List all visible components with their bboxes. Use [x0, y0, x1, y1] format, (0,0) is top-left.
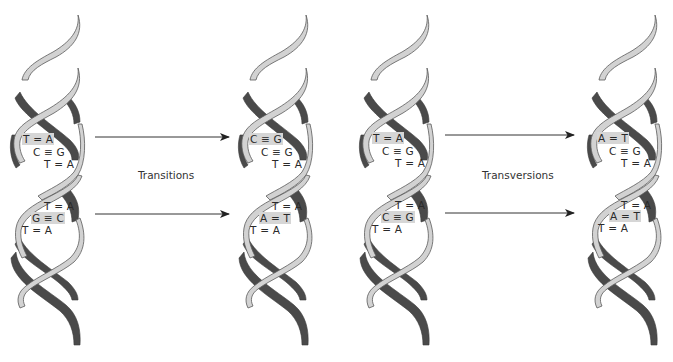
- base-pair-highlighted: T = A: [22, 133, 54, 145]
- base-pair: T = A: [22, 224, 52, 236]
- base-pair: T = A: [621, 157, 651, 169]
- base-pair: T = A: [395, 157, 425, 169]
- base-pair: T = A: [395, 199, 425, 211]
- base-pair-highlighted: T = A: [372, 132, 404, 144]
- helix-original-2: [359, 15, 433, 345]
- base-pair: T = A: [598, 222, 628, 234]
- transitions-label: Transitions: [138, 169, 194, 181]
- base-pair-highlighted: A = T: [597, 132, 629, 144]
- base-pair: C ≡ G: [609, 145, 641, 157]
- base-pair: T = A: [250, 224, 280, 236]
- base-pair: C ≡ G: [261, 146, 293, 158]
- base-pair: T = A: [44, 200, 74, 212]
- base-pair-highlighted: C ≡ G: [381, 211, 415, 223]
- base-pair: C ≡ G: [382, 145, 414, 157]
- base-pair: T = A: [272, 200, 302, 212]
- helix-transition-result: [238, 15, 312, 345]
- base-pair-highlighted: A = T: [259, 212, 291, 224]
- base-pair-highlighted: A = T: [609, 210, 641, 222]
- base-pair-highlighted: C ≡ G: [249, 133, 283, 145]
- base-pair: T = A: [372, 223, 402, 235]
- transversions-label: Transversions: [482, 169, 554, 181]
- base-pair: C ≡ G: [33, 146, 65, 158]
- base-pair: T = A: [44, 158, 74, 170]
- helix-transversion-result: [587, 15, 661, 345]
- diagram-canvas: [0, 0, 673, 362]
- helix-original-1: [10, 15, 84, 345]
- base-pair-highlighted: G ≡ C: [31, 212, 65, 224]
- base-pair: T = A: [272, 158, 302, 170]
